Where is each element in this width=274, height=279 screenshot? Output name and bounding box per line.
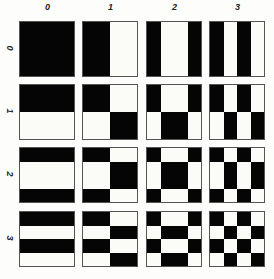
white-block — [83, 112, 97, 126]
white-block — [224, 239, 238, 253]
black-block — [34, 148, 48, 162]
white-block — [161, 36, 175, 50]
black-block — [237, 49, 251, 63]
white-block — [224, 99, 238, 113]
black-block — [174, 253, 188, 267]
black-block — [251, 253, 265, 267]
black-block — [124, 162, 138, 176]
white-block — [188, 175, 202, 189]
column-label-0: 0 — [19, 2, 76, 12]
white-block — [97, 162, 111, 176]
black-block — [251, 112, 265, 126]
black-block — [210, 99, 224, 113]
white-block — [20, 175, 34, 189]
black-block — [97, 49, 111, 63]
black-block — [147, 239, 161, 253]
black-block — [97, 63, 111, 77]
white-block — [47, 112, 61, 126]
black-block — [110, 175, 124, 189]
black-block — [20, 49, 34, 63]
white-block — [251, 63, 265, 77]
black-block — [161, 162, 175, 176]
column-label-2: 2 — [146, 2, 203, 12]
black-block — [147, 148, 161, 162]
black-block — [20, 22, 34, 36]
white-block — [83, 175, 97, 189]
black-block — [34, 49, 48, 63]
white-block — [20, 126, 34, 140]
white-block — [34, 112, 48, 126]
black-block — [251, 162, 265, 176]
black-block — [237, 63, 251, 77]
white-block — [161, 189, 175, 203]
white-block — [210, 162, 224, 176]
black-block — [210, 189, 224, 203]
black-block — [224, 175, 238, 189]
black-block — [34, 99, 48, 113]
white-block — [47, 253, 61, 267]
black-block — [83, 36, 97, 50]
white-block — [110, 22, 124, 36]
black-block — [61, 63, 75, 77]
white-block — [251, 212, 265, 226]
white-block — [47, 126, 61, 140]
white-block — [34, 253, 48, 267]
black-block — [251, 175, 265, 189]
black-block — [61, 239, 75, 253]
basis-cell-1-3 — [209, 84, 265, 140]
black-block — [210, 148, 224, 162]
black-block — [20, 63, 34, 77]
black-block — [61, 36, 75, 50]
white-block — [124, 85, 138, 99]
white-block — [161, 63, 175, 77]
column-label-3: 3 — [209, 2, 266, 12]
white-block — [161, 212, 175, 226]
black-block — [124, 175, 138, 189]
white-block — [174, 22, 188, 36]
black-block — [83, 148, 97, 162]
black-block — [34, 63, 48, 77]
black-block — [61, 22, 75, 36]
black-block — [34, 212, 48, 226]
white-block — [210, 126, 224, 140]
white-block — [61, 112, 75, 126]
black-block — [161, 112, 175, 126]
white-block — [188, 253, 202, 267]
white-block — [124, 239, 138, 253]
black-block — [110, 112, 124, 126]
white-block — [20, 253, 34, 267]
black-block — [20, 239, 34, 253]
white-block — [237, 126, 251, 140]
white-block — [147, 253, 161, 267]
white-block — [147, 175, 161, 189]
black-block — [61, 148, 75, 162]
row-label-2: 2 — [5, 169, 15, 179]
white-block — [174, 148, 188, 162]
white-block — [110, 85, 124, 99]
white-block — [20, 162, 34, 176]
black-block — [97, 148, 111, 162]
white-block — [251, 189, 265, 203]
white-block — [124, 189, 138, 203]
white-block — [124, 148, 138, 162]
white-block — [224, 49, 238, 63]
black-block — [34, 85, 48, 99]
basis-cell-1-0 — [19, 84, 75, 140]
white-block — [224, 212, 238, 226]
white-block — [124, 36, 138, 50]
white-block — [161, 99, 175, 113]
white-block — [47, 162, 61, 176]
white-block — [61, 126, 75, 140]
black-block — [61, 85, 75, 99]
row-label-0: 0 — [5, 43, 15, 53]
black-block — [61, 189, 75, 203]
black-block — [224, 226, 238, 240]
black-block — [174, 112, 188, 126]
white-block — [188, 162, 202, 176]
black-block — [20, 148, 34, 162]
white-block — [174, 239, 188, 253]
white-block — [251, 99, 265, 113]
black-block — [251, 226, 265, 240]
black-block — [61, 212, 75, 226]
black-block — [97, 212, 111, 226]
